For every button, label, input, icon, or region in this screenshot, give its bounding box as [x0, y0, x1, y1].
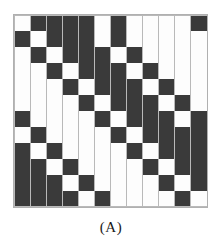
matrix-cell	[79, 191, 95, 206]
matrix-cell	[95, 191, 111, 206]
matrix-cell	[95, 127, 111, 142]
matrix-cell	[31, 111, 47, 126]
matrix-cell	[127, 143, 143, 158]
matrix-cell	[31, 16, 47, 31]
matrix-cell	[95, 47, 111, 62]
matrix-cell	[127, 63, 143, 78]
matrix-cell	[175, 16, 191, 31]
matrix-cell	[159, 31, 175, 46]
matrix-cell	[111, 47, 127, 62]
matrix-cell	[175, 47, 191, 62]
matrix-cell	[191, 191, 207, 206]
matrix-cell	[15, 127, 31, 142]
matrix-cell	[47, 31, 63, 46]
matrix-cell	[47, 95, 63, 110]
matrix-cell	[79, 79, 95, 94]
matrix-cell	[79, 143, 95, 158]
matrix-cell	[15, 191, 31, 206]
matrix-cell	[31, 191, 47, 206]
matrix-cell	[31, 63, 47, 78]
matrix-cell	[63, 63, 79, 78]
matrix-cell	[47, 63, 63, 78]
matrix-cell	[143, 127, 159, 142]
matrix-cell	[31, 79, 47, 94]
matrix-cell	[159, 47, 175, 62]
matrix-cell	[63, 111, 79, 126]
matrix-cell	[47, 143, 63, 158]
matrix-cell	[143, 175, 159, 190]
matrix-cell	[63, 175, 79, 190]
matrix-cell	[111, 191, 127, 206]
matrix-cell	[159, 111, 175, 126]
matrix-cell	[95, 159, 111, 174]
matrix-cell	[143, 143, 159, 158]
matrix-cell	[79, 63, 95, 78]
matrix-cell	[63, 143, 79, 158]
matrix-cell	[47, 191, 63, 206]
matrix-cell	[175, 31, 191, 46]
matrix-cell	[175, 95, 191, 110]
matrix-cell	[175, 175, 191, 190]
matrix-cell	[63, 127, 79, 142]
matrix-cell	[63, 16, 79, 31]
matrix-cell	[111, 143, 127, 158]
matrix-cell	[63, 31, 79, 46]
matrix-cell	[127, 111, 143, 126]
matrix-cell	[111, 95, 127, 110]
matrix-cell	[143, 31, 159, 46]
matrix-cell	[127, 175, 143, 190]
matrix-cell	[127, 47, 143, 62]
matrix-cell	[191, 175, 207, 190]
matrix-cell	[159, 143, 175, 158]
matrix-cell	[79, 16, 95, 31]
matrix-cell	[95, 95, 111, 110]
matrix-cell	[111, 159, 127, 174]
matrix-cell	[15, 175, 31, 190]
matrix-cell	[63, 159, 79, 174]
matrix-cell	[143, 191, 159, 206]
matrix-cell	[15, 63, 31, 78]
matrix-cell	[143, 63, 159, 78]
matrix-cell	[95, 31, 111, 46]
matrix-cell	[175, 63, 191, 78]
matrix-cell	[79, 111, 95, 126]
matrix-cell	[79, 95, 95, 110]
matrix-cell	[79, 159, 95, 174]
matrix-cell	[31, 47, 47, 62]
matrix-cell	[79, 127, 95, 142]
matrix-cell	[31, 175, 47, 190]
matrix-cell	[95, 63, 111, 78]
binary-matrix-grid	[13, 14, 208, 208]
figure-caption: (A)	[0, 219, 222, 236]
matrix-cell	[111, 111, 127, 126]
matrix-cell	[159, 79, 175, 94]
matrix-cell	[191, 63, 207, 78]
matrix-cell	[47, 159, 63, 174]
matrix-cell	[127, 79, 143, 94]
matrix-cell	[143, 159, 159, 174]
matrix-cell	[111, 79, 127, 94]
matrix-cell	[47, 111, 63, 126]
matrix-cell	[143, 16, 159, 31]
matrix-cell	[95, 111, 111, 126]
matrix-cell	[159, 63, 175, 78]
matrix-cell	[15, 16, 31, 31]
matrix-cell	[47, 79, 63, 94]
matrix-cell	[111, 175, 127, 190]
matrix-cell	[127, 31, 143, 46]
matrix-cell	[63, 47, 79, 62]
matrix-cell	[47, 16, 63, 31]
matrix-cell	[95, 143, 111, 158]
matrix-cell	[143, 111, 159, 126]
matrix-cell	[47, 47, 63, 62]
matrix-cell	[111, 31, 127, 46]
matrix-cell	[15, 31, 31, 46]
matrix-cell	[111, 63, 127, 78]
matrix-cell	[159, 16, 175, 31]
matrix-cell	[159, 191, 175, 206]
matrix-cell	[15, 79, 31, 94]
matrix-cell	[191, 159, 207, 174]
matrix-cell	[79, 47, 95, 62]
matrix-cell	[191, 16, 207, 31]
matrix-cell	[95, 16, 111, 31]
